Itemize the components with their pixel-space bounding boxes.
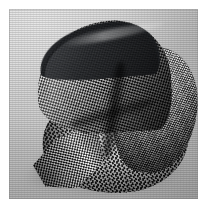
photograph: A length of fine houndstooth-check fabri… [9,9,198,199]
image-canvas: A length of fine houndstooth-check fabri… [0,0,207,211]
image-medium: black-and-white photograph [0,0,1,1]
pattern-name: houndstooth-check [0,0,1,1]
image-title: Folded houndstooth fabric [0,0,1,1]
folded-fabric-object [9,9,198,199]
